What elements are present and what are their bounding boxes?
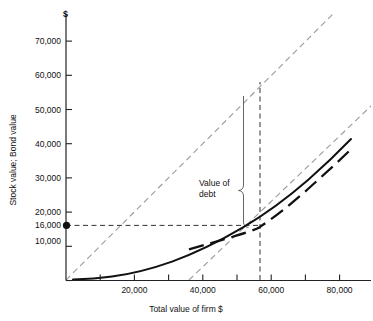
y-tick-label-40000: 40,000 <box>35 139 61 149</box>
bond-value-at-zero-marker <box>63 222 70 229</box>
x-tick-label-80000: 80,000 <box>327 285 353 295</box>
y-tick-label-50000: 50,000 <box>35 105 61 115</box>
stock-bond-value-chart: 10,000 16,000 20,000 30,000 40,000 50,00… <box>0 0 373 321</box>
y-tick-label-60000: 60,000 <box>35 70 61 80</box>
x-tick-label-20000: 20,000 <box>121 285 147 295</box>
y-tick-label-10000: 10,000 <box>35 236 61 246</box>
x-tick-marks <box>100 275 339 281</box>
y-tick-label-70000: 70,000 <box>35 36 61 46</box>
x-axis-title: Total value of firm $ <box>149 304 223 314</box>
x-tick-label-40000: 40,000 <box>190 285 216 295</box>
y-axis-unit-marker: $ <box>63 9 68 19</box>
y-tick-marks <box>66 41 72 280</box>
chart-svg: 10,000 16,000 20,000 30,000 40,000 50,00… <box>0 0 373 321</box>
y-tick-label-30000: 30,000 <box>35 173 61 183</box>
forty-five-degree-line <box>66 14 333 280</box>
y-tick-label-20000: 20,000 <box>35 207 61 217</box>
y-tick-label-16000: 16,000 <box>35 220 61 230</box>
annotation-value-of-debt-line2: debt <box>199 189 216 199</box>
x-tick-label-60000: 60,000 <box>258 285 284 295</box>
annotation-value-of-debt-line1: Value of <box>199 178 230 188</box>
value-of-debt-bracket <box>239 96 249 228</box>
debt-payoff-line <box>189 106 371 280</box>
y-axis-title: Stock value; Bond value <box>8 114 18 205</box>
